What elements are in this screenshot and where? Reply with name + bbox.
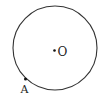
label-o: O <box>58 45 68 59</box>
circle-o <box>13 6 97 90</box>
center-point-o <box>53 49 56 52</box>
label-a: A <box>20 83 30 96</box>
point-a <box>24 78 27 81</box>
circle-diagram: O A <box>0 0 101 99</box>
